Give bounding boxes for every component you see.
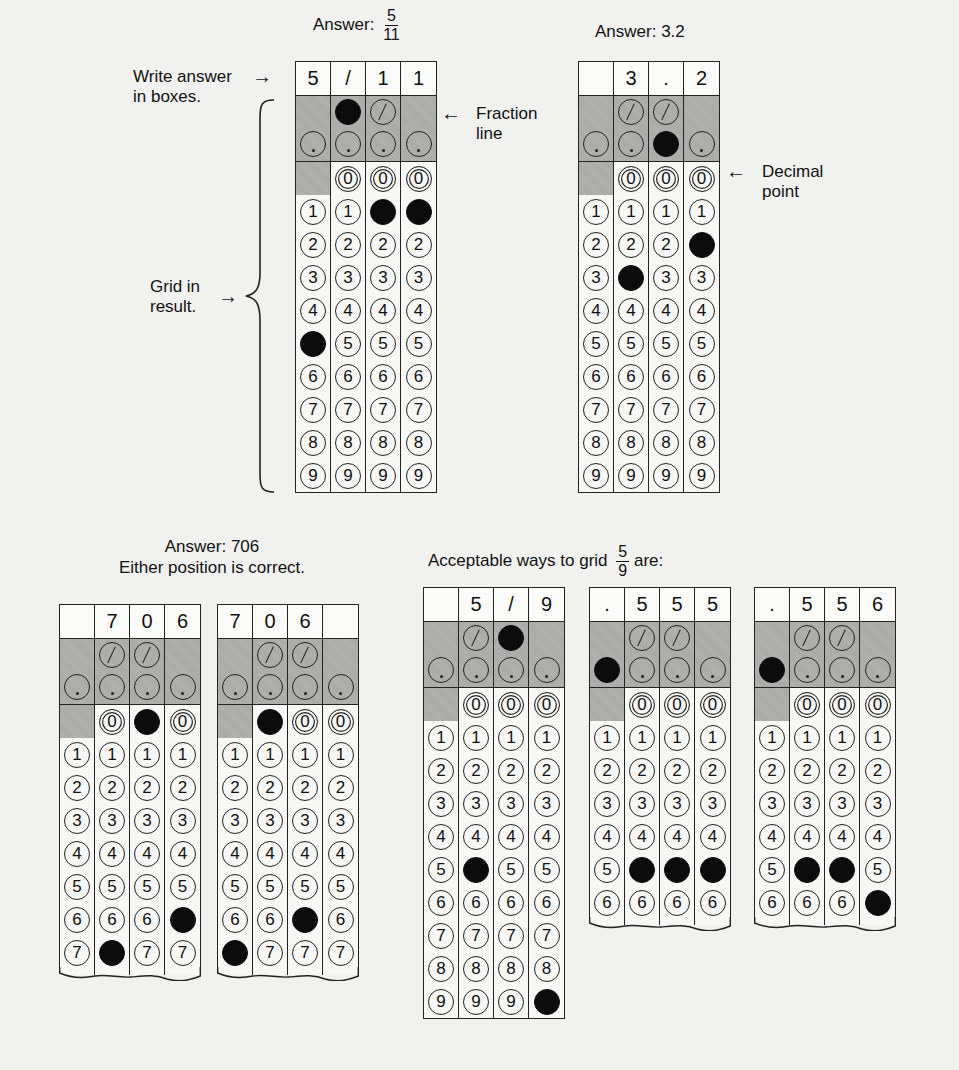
digit-bubble-2[interactable]: 2 (498, 758, 524, 784)
digit-bubble-6[interactable]: 6 (629, 890, 655, 916)
slash-bubble[interactable] (653, 99, 679, 125)
digit-bubble-6[interactable]: 6 (829, 890, 855, 916)
digit-bubble-0[interactable]: 0 (700, 692, 726, 718)
digit-bubble-1[interactable]: 1 (618, 199, 644, 225)
digit-bubble-5[interactable]: 5 (463, 857, 489, 883)
decimal-bubble[interactable] (370, 131, 396, 157)
digit-bubble-2[interactable]: 2 (618, 232, 644, 258)
digit-bubble-4[interactable]: 4 (292, 841, 318, 867)
slash-bubble[interactable] (335, 99, 361, 125)
digit-bubble-5[interactable]: 5 (618, 331, 644, 357)
decimal-bubble[interactable] (759, 657, 785, 683)
digit-bubble-3[interactable]: 3 (759, 791, 785, 817)
digit-bubble-3[interactable]: 3 (618, 265, 644, 291)
answer-box[interactable]: 5 (625, 587, 659, 622)
answer-box[interactable]: 2 (684, 61, 719, 96)
digit-bubble-3[interactable]: 3 (99, 808, 125, 834)
answer-box[interactable]: 0 (130, 604, 164, 639)
digit-bubble-7[interactable]: 7 (370, 397, 396, 423)
digit-bubble-3[interactable]: 3 (664, 791, 690, 817)
digit-bubble-5[interactable]: 5 (583, 331, 609, 357)
digit-bubble-2[interactable]: 2 (689, 232, 715, 258)
answer-box[interactable]: . (755, 587, 789, 622)
answer-box[interactable]: 5 (825, 587, 859, 622)
digit-bubble-4[interactable]: 4 (463, 824, 489, 850)
digit-bubble-7[interactable]: 7 (689, 397, 715, 423)
answer-box[interactable]: 6 (165, 604, 200, 639)
digit-bubble-9[interactable]: 9 (689, 463, 715, 489)
digit-bubble-3[interactable]: 3 (257, 808, 283, 834)
digit-bubble-5[interactable]: 5 (700, 857, 726, 883)
digit-bubble-4[interactable]: 4 (759, 824, 785, 850)
digit-bubble-4[interactable]: 4 (328, 841, 354, 867)
answer-box[interactable]: . (649, 61, 683, 96)
answer-box[interactable] (60, 604, 94, 639)
digit-bubble-7[interactable]: 7 (534, 923, 560, 949)
digit-bubble-7[interactable]: 7 (653, 397, 679, 423)
digit-bubble-2[interactable]: 2 (583, 232, 609, 258)
digit-bubble-5[interactable]: 5 (257, 874, 283, 900)
digit-bubble-6[interactable]: 6 (700, 890, 726, 916)
digit-bubble-3[interactable]: 3 (629, 791, 655, 817)
digit-bubble-8[interactable]: 8 (498, 956, 524, 982)
answer-box[interactable]: 5 (695, 587, 730, 622)
digit-bubble-3[interactable]: 3 (534, 791, 560, 817)
digit-bubble-1[interactable]: 1 (222, 742, 248, 768)
digit-bubble-1[interactable]: 1 (463, 725, 489, 751)
digit-bubble-5[interactable]: 5 (829, 857, 855, 883)
digit-bubble-9[interactable]: 9 (428, 989, 454, 1015)
slash-bubble[interactable] (99, 642, 125, 668)
digit-bubble-0[interactable]: 0 (170, 709, 196, 735)
digit-bubble-3[interactable]: 3 (653, 265, 679, 291)
digit-bubble-3[interactable]: 3 (498, 791, 524, 817)
answer-box[interactable]: 5 (790, 587, 824, 622)
digit-bubble-5[interactable]: 5 (99, 874, 125, 900)
digit-bubble-7[interactable]: 7 (618, 397, 644, 423)
digit-bubble-7[interactable]: 7 (335, 397, 361, 423)
digit-bubble-3[interactable]: 3 (700, 791, 726, 817)
digit-bubble-8[interactable]: 8 (534, 956, 560, 982)
decimal-bubble[interactable] (292, 674, 318, 700)
digit-bubble-9[interactable]: 9 (300, 463, 326, 489)
answer-box[interactable]: 5 (296, 61, 330, 96)
digit-bubble-7[interactable]: 7 (222, 940, 248, 966)
digit-bubble-0[interactable]: 0 (134, 709, 160, 735)
digit-bubble-0[interactable]: 0 (335, 166, 361, 192)
digit-bubble-4[interactable]: 4 (257, 841, 283, 867)
digit-bubble-2[interactable]: 2 (664, 758, 690, 784)
decimal-bubble[interactable] (583, 131, 609, 157)
digit-bubble-1[interactable]: 1 (328, 742, 354, 768)
digit-bubble-4[interactable]: 4 (618, 298, 644, 324)
slash-bubble[interactable] (618, 99, 644, 125)
answer-box[interactable]: 5 (660, 587, 694, 622)
digit-bubble-7[interactable]: 7 (463, 923, 489, 949)
digit-bubble-7[interactable]: 7 (170, 940, 196, 966)
digit-bubble-5[interactable]: 5 (335, 331, 361, 357)
digit-bubble-1[interactable]: 1 (829, 725, 855, 751)
digit-bubble-3[interactable]: 3 (428, 791, 454, 817)
digit-bubble-0[interactable]: 0 (370, 166, 396, 192)
answer-box[interactable]: . (590, 587, 624, 622)
digit-bubble-1[interactable]: 1 (700, 725, 726, 751)
digit-bubble-4[interactable]: 4 (865, 824, 891, 850)
digit-bubble-1[interactable]: 1 (583, 199, 609, 225)
decimal-bubble[interactable] (328, 674, 354, 700)
digit-bubble-9[interactable]: 9 (498, 989, 524, 1015)
digit-bubble-5[interactable]: 5 (134, 874, 160, 900)
digit-bubble-4[interactable]: 4 (64, 841, 90, 867)
digit-bubble-8[interactable]: 8 (583, 430, 609, 456)
digit-bubble-1[interactable]: 1 (689, 199, 715, 225)
digit-bubble-5[interactable]: 5 (222, 874, 248, 900)
digit-bubble-7[interactable]: 7 (583, 397, 609, 423)
digit-bubble-5[interactable]: 5 (865, 857, 891, 883)
digit-bubble-1[interactable]: 1 (629, 725, 655, 751)
decimal-bubble[interactable] (689, 131, 715, 157)
digit-bubble-4[interactable]: 4 (99, 841, 125, 867)
digit-bubble-9[interactable]: 9 (583, 463, 609, 489)
digit-bubble-6[interactable]: 6 (222, 907, 248, 933)
digit-bubble-6[interactable]: 6 (594, 890, 620, 916)
digit-bubble-5[interactable]: 5 (428, 857, 454, 883)
digit-bubble-1[interactable]: 1 (794, 725, 820, 751)
digit-bubble-6[interactable]: 6 (292, 907, 318, 933)
digit-bubble-4[interactable]: 4 (664, 824, 690, 850)
